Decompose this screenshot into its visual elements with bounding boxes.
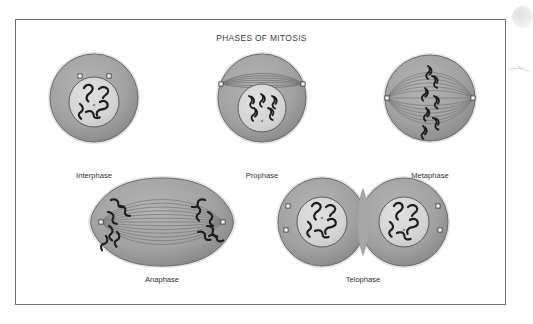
- phase-cell-telophase: [276, 176, 450, 268]
- diagram-frame: PHASES OF MITOSIS: [15, 19, 506, 305]
- phase-cell-prophase: [216, 52, 308, 144]
- phase-label-metaphase: Metaphase: [385, 171, 475, 180]
- phase-label-telophase: Telophase: [318, 275, 408, 284]
- mitosis-figure: PHASES OF MITOSIS: [0, 0, 533, 324]
- phase-cell-anaphase: [88, 176, 236, 268]
- phase-label-anaphase: Anaphase: [117, 275, 207, 284]
- scanner-streak-artifact: [508, 62, 532, 76]
- telophase-daughter-cell-left: [297, 197, 347, 247]
- phase-label-interphase: Interphase: [49, 171, 139, 180]
- mitosis-illustration: [16, 20, 507, 306]
- phase-cell-metaphase: [383, 53, 477, 143]
- telophase-daughter-cell-right: [379, 197, 429, 247]
- phase-cell-interphase: [48, 52, 140, 144]
- phase-label-prophase: Prophase: [217, 171, 307, 180]
- scanner-smudge-artifact: [512, 6, 533, 28]
